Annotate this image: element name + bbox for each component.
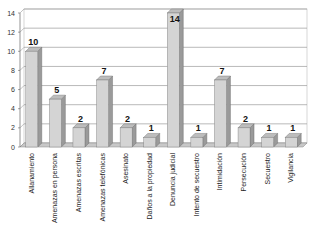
x-tick-label: Secuestro: [264, 153, 271, 185]
y-tick-label: 10: [7, 48, 15, 55]
y-tick-label: 4: [11, 105, 15, 112]
bar-value-label: 1: [290, 123, 295, 133]
x-tick-label: Denuncia judicial: [169, 153, 177, 206]
bar-value-label: 1: [196, 123, 201, 133]
y-tick-label: 8: [11, 67, 15, 74]
bar-value-label: 7: [102, 66, 107, 76]
y-tick-label: 14: [7, 10, 15, 17]
y-tick-label: 6: [11, 86, 15, 93]
bar: 7: [97, 66, 113, 147]
x-tick-label: Amenazas escritas: [75, 153, 82, 213]
x-tick-label: Vigilancia: [287, 153, 295, 183]
x-tick-label: Persecución: [240, 153, 247, 192]
bar-value-label: 2: [78, 114, 83, 124]
y-tick-label: 0: [11, 144, 15, 151]
bar: 10: [26, 37, 42, 147]
bar-value-label: 1: [267, 123, 272, 133]
bar-value-label: 2: [243, 114, 248, 124]
y-axis: 02468101214: [7, 10, 20, 151]
bar-value-label: 2: [125, 114, 130, 124]
x-axis-labels: AllanamientoAmenazas en personaAmenazas …: [28, 153, 295, 224]
y-tick-label: 12: [7, 29, 15, 36]
bar-value-label: 10: [28, 37, 38, 47]
x-tick-label: Asesinato: [122, 153, 129, 184]
bar: 14: [167, 9, 183, 147]
x-tick-label: Intento de secuestro: [193, 153, 200, 217]
y-tick-label: 2: [11, 124, 15, 131]
x-tick-label: Daños a la propiedad: [146, 153, 154, 220]
bar-chart: 02468101214 10527211417211 AllanamientoA…: [0, 0, 311, 226]
x-tick-label: Allanamiento: [28, 153, 35, 194]
bar-value-label: 14: [170, 14, 180, 24]
bar-value-label: 1: [149, 123, 154, 133]
bar-value-label: 7: [219, 66, 224, 76]
bar: 7: [214, 66, 230, 147]
bar-value-label: 5: [54, 85, 59, 95]
x-tick-label: Intimidación: [216, 153, 223, 190]
x-tick-label: Amenazas telefónicas: [99, 153, 106, 222]
x-tick-label: Amenazas en persona: [51, 153, 59, 223]
